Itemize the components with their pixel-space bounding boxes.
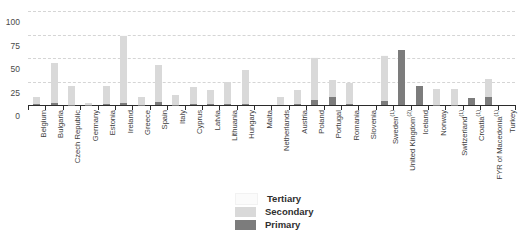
bar-segment-primary[interactable] bbox=[485, 97, 492, 105]
bar-group[interactable] bbox=[445, 11, 462, 105]
bar-segment-secondary[interactable] bbox=[33, 97, 40, 104]
bar-group[interactable] bbox=[254, 11, 271, 105]
bar-stack[interactable] bbox=[311, 11, 318, 105]
x-label-cell: Norway bbox=[428, 110, 445, 182]
bar-group[interactable] bbox=[63, 11, 80, 105]
bar-stack[interactable] bbox=[190, 11, 197, 105]
bar-segment-primary[interactable] bbox=[329, 97, 336, 105]
bar-stack[interactable] bbox=[242, 11, 249, 105]
bar-segment-secondary[interactable] bbox=[311, 58, 318, 100]
bar-stack[interactable] bbox=[329, 11, 336, 105]
bar-stack[interactable] bbox=[138, 11, 145, 105]
bar-stack[interactable] bbox=[224, 11, 231, 105]
bar-group[interactable] bbox=[463, 11, 480, 105]
bar-group[interactable] bbox=[341, 11, 358, 105]
bar-segment-primary[interactable] bbox=[398, 50, 405, 105]
bar-segment-secondary[interactable] bbox=[294, 90, 301, 104]
bar-group[interactable] bbox=[167, 11, 184, 105]
bar-segment-secondary[interactable] bbox=[224, 82, 231, 104]
bar-group[interactable] bbox=[376, 11, 393, 105]
bar-stack[interactable] bbox=[85, 11, 92, 105]
bar-segment-secondary[interactable] bbox=[51, 63, 58, 103]
bar-segment-secondary[interactable] bbox=[68, 86, 75, 104]
x-label-cell: Belgium bbox=[28, 110, 45, 182]
bar-group[interactable] bbox=[237, 11, 254, 105]
bar-stack[interactable] bbox=[364, 11, 371, 105]
bar-segment-secondary[interactable] bbox=[207, 90, 214, 104]
bar-group[interactable] bbox=[185, 11, 202, 105]
bar-stack[interactable] bbox=[172, 11, 179, 105]
bar-segment-secondary[interactable] bbox=[329, 80, 336, 97]
bar-stack[interactable] bbox=[381, 11, 388, 105]
x-label-cell: Czech Republic bbox=[63, 110, 80, 182]
bar-stack[interactable] bbox=[259, 11, 266, 105]
bar-group[interactable] bbox=[80, 11, 97, 105]
bar-stack[interactable] bbox=[346, 11, 353, 105]
bar-stack[interactable] bbox=[503, 11, 510, 105]
bar-segment-secondary[interactable] bbox=[190, 87, 197, 104]
bar-group[interactable] bbox=[289, 11, 306, 105]
bar-group[interactable] bbox=[306, 11, 323, 105]
bar-group[interactable] bbox=[480, 11, 497, 105]
x-label-cell: FYR of Macedonia(1) bbox=[480, 110, 497, 182]
bar-segment-secondary[interactable] bbox=[346, 83, 353, 104]
bar-group[interactable] bbox=[358, 11, 375, 105]
x-label-cell: Germany bbox=[80, 110, 97, 182]
legend-item-tertiary[interactable]: Tertiary bbox=[235, 193, 314, 204]
bar-group[interactable] bbox=[324, 11, 341, 105]
bar-stack[interactable] bbox=[398, 11, 405, 105]
x-label-cell: Latvia bbox=[202, 110, 219, 182]
x-axis-labels: BelgiumBulgariaCzech RepublicGermanyEsto… bbox=[28, 110, 515, 182]
bar-stack[interactable] bbox=[120, 11, 127, 105]
bar-group[interactable] bbox=[45, 11, 62, 105]
bar-group[interactable] bbox=[219, 11, 236, 105]
bar-stack[interactable] bbox=[277, 11, 284, 105]
bar-group[interactable] bbox=[393, 11, 410, 105]
bar-segment-primary[interactable] bbox=[416, 86, 423, 105]
bar-segment-primary[interactable] bbox=[468, 98, 475, 105]
bar-stack[interactable] bbox=[207, 11, 214, 105]
bar-stack[interactable] bbox=[451, 11, 458, 105]
x-label-cell: Croatia(1) bbox=[463, 110, 480, 182]
legend-swatch-tertiary bbox=[235, 193, 258, 205]
y-axis: 0255075100 bbox=[0, 11, 24, 105]
y-axis-tick-label: 0 bbox=[0, 112, 20, 121]
bar-group[interactable] bbox=[202, 11, 219, 105]
bar-segment-secondary[interactable] bbox=[242, 70, 249, 104]
bar-group[interactable] bbox=[428, 11, 445, 105]
bar-segment-secondary[interactable] bbox=[433, 89, 440, 105]
bar-group[interactable] bbox=[132, 11, 149, 105]
bar-segment-secondary[interactable] bbox=[451, 89, 458, 105]
bar-group[interactable] bbox=[271, 11, 288, 105]
bar-group[interactable] bbox=[150, 11, 167, 105]
bar-segment-secondary[interactable] bbox=[103, 86, 110, 104]
bar-stack[interactable] bbox=[468, 11, 475, 105]
bar-segment-secondary[interactable] bbox=[138, 97, 145, 105]
bar-segment-secondary[interactable] bbox=[155, 65, 162, 103]
x-label-cell: Cyprus bbox=[185, 110, 202, 182]
bar-group[interactable] bbox=[411, 11, 428, 105]
bar-stack[interactable] bbox=[103, 11, 110, 105]
bar-segment-secondary[interactable] bbox=[485, 79, 492, 97]
bar-stack[interactable] bbox=[155, 11, 162, 105]
bar-stack[interactable] bbox=[485, 11, 492, 105]
bar-group[interactable] bbox=[115, 11, 132, 105]
bar-stack[interactable] bbox=[33, 11, 40, 105]
bar-segment-secondary[interactable] bbox=[277, 97, 284, 105]
bar-segment-secondary[interactable] bbox=[172, 95, 179, 105]
legend-item-secondary[interactable]: Secondary bbox=[235, 206, 314, 217]
bar-stack[interactable] bbox=[68, 11, 75, 105]
bar-stack[interactable] bbox=[416, 11, 423, 105]
legend-item-primary[interactable]: Primary bbox=[235, 219, 314, 230]
bar-group[interactable] bbox=[98, 11, 115, 105]
bar-group[interactable] bbox=[28, 11, 45, 105]
bar-segment-secondary[interactable] bbox=[120, 36, 127, 103]
bar-stack[interactable] bbox=[433, 11, 440, 105]
bar-stack[interactable] bbox=[294, 11, 301, 105]
x-label-cell: Spain bbox=[150, 110, 167, 182]
x-label-cell: Hungary bbox=[237, 110, 254, 182]
bar-stack[interactable] bbox=[51, 11, 58, 105]
bar-group[interactable] bbox=[498, 11, 515, 105]
bar-segment-secondary[interactable] bbox=[381, 56, 388, 101]
chart-legend: TertiarySecondaryPrimary bbox=[235, 193, 314, 230]
